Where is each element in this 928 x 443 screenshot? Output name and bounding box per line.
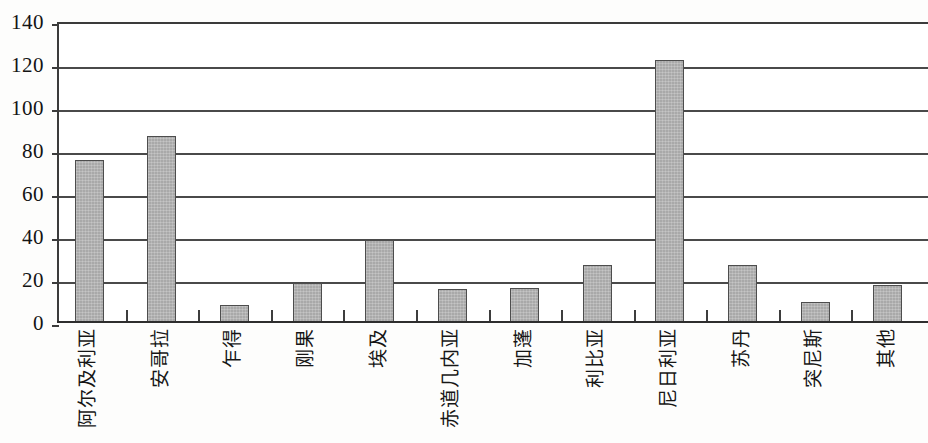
y-axis-tick: [52, 196, 59, 198]
y-axis-tick-labels: 020406080100120140: [0, 0, 52, 443]
x-axis-category-label-text: 其他: [876, 328, 895, 368]
x-axis-category-label-text: 乍得: [223, 328, 242, 368]
y-axis-tick-label: 40: [22, 227, 44, 248]
x-axis-category-label-text: 阿尔及利亚: [78, 328, 97, 428]
y-axis-tick: [52, 110, 59, 112]
x-axis-category-label-text: 利比亚: [586, 328, 605, 388]
x-axis-category-label-text: 加蓬: [513, 328, 532, 368]
x-axis-category-label-text: 刚果: [296, 328, 315, 368]
y-axis-tick-label: 80: [22, 141, 44, 162]
y-axis-tick-label: 0: [33, 313, 44, 334]
bar-series: [59, 24, 928, 323]
bar: [655, 60, 684, 323]
x-axis-category-label: 尼日利亚: [668, 328, 687, 408]
x-axis-category-label: 刚果: [305, 328, 324, 368]
y-axis-tick: [52, 24, 59, 26]
y-axis-tick: [52, 67, 59, 69]
bar: [365, 240, 394, 323]
y-axis-tick: [52, 282, 59, 284]
y-axis-tick-label: 60: [22, 184, 44, 205]
bar: [801, 302, 830, 324]
x-axis-category-label-text: 尼日利亚: [658, 328, 677, 408]
x-axis-category-label-text: 苏丹: [731, 328, 750, 368]
bar: [510, 288, 539, 323]
x-axis-category-label-text: 安哥拉: [150, 328, 169, 388]
bar: [873, 285, 902, 323]
x-axis-category-label: 安哥拉: [160, 328, 179, 388]
x-axis-category-label: 乍得: [232, 328, 251, 368]
plot-area: [57, 22, 928, 323]
x-axis-category-label-text: 突尼斯: [804, 328, 823, 388]
bar-chart: 020406080100120140 阿尔及利亚安哥拉乍得刚果埃及赤道几内亚加蓬…: [0, 0, 928, 443]
x-axis-category-label: 赤道几内亚: [450, 328, 469, 428]
x-axis-category-label: 苏丹: [741, 328, 760, 368]
y-axis-tick: [52, 325, 59, 327]
x-axis-category-label: 其他: [886, 328, 905, 368]
x-axis-category-label-text: 埃及: [368, 328, 387, 368]
bar: [728, 265, 757, 323]
x-axis-baseline: [57, 321, 928, 323]
bar: [583, 265, 612, 323]
y-axis-tick: [52, 153, 59, 155]
y-axis-tick-label: 100: [11, 98, 44, 119]
x-axis-category-label: 埃及: [378, 328, 397, 368]
y-axis-tick-label: 20: [22, 270, 44, 291]
y-axis-tick: [52, 239, 59, 241]
x-axis-category-label: 突尼斯: [813, 328, 832, 388]
x-axis-category-label: 利比亚: [595, 328, 614, 388]
bar: [293, 283, 322, 323]
bar: [147, 136, 176, 323]
bar: [75, 160, 104, 323]
bar: [438, 289, 467, 323]
x-axis-category-label-text: 赤道几内亚: [441, 328, 460, 428]
y-axis-tick-label: 140: [11, 12, 44, 33]
y-axis-tick-label: 120: [11, 55, 44, 76]
x-axis-category-label: 加蓬: [523, 328, 542, 368]
x-axis-category-labels: 阿尔及利亚安哥拉乍得刚果埃及赤道几内亚加蓬利比亚尼日利亚苏丹突尼斯其他: [57, 328, 928, 443]
x-axis-category-label: 阿尔及利亚: [87, 328, 106, 428]
